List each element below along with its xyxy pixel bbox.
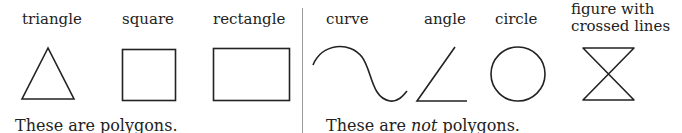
caption-polygons: These are polygons. <box>15 117 177 133</box>
crossed-lines-shape <box>583 48 634 100</box>
shapes-canvas <box>0 0 682 133</box>
rectangle-shape <box>214 49 290 101</box>
caption-emphasis: not <box>411 116 437 133</box>
caption-pre: These are <box>326 116 411 133</box>
caption-post: polygons. <box>437 116 520 133</box>
square-shape <box>123 50 176 101</box>
triangle-shape <box>22 48 74 99</box>
caption-not-polygons: These are not polygons. <box>326 117 520 133</box>
circle-shape <box>491 47 545 101</box>
curve-shape <box>313 47 407 102</box>
angle-shape <box>417 47 467 101</box>
